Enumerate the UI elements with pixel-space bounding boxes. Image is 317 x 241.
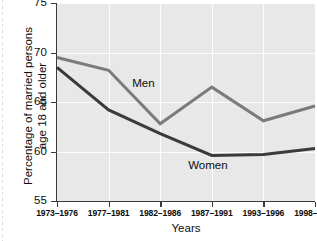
- x-tick-mark: [263, 202, 264, 207]
- x-tick-label: 1987–1991: [191, 208, 233, 218]
- series-label-men: Men: [132, 77, 154, 89]
- chart-figure: Percentage of married persons age 18 and…: [0, 0, 317, 241]
- x-axis-title: Years: [57, 222, 315, 234]
- y-tick-label: 55: [34, 194, 47, 206]
- series-line-men: [57, 57, 315, 123]
- series-lines-layer: [57, 3, 315, 201]
- y-tick-label: 70: [34, 46, 47, 58]
- series-line-women: [57, 67, 315, 155]
- x-tick-mark: [57, 202, 58, 207]
- x-tick-label: 1977–1981: [88, 208, 130, 218]
- y-tick-label: 65: [34, 95, 47, 107]
- x-tick-mark: [212, 202, 213, 207]
- page-edge-dashed-rule: [2, 0, 3, 241]
- series-label-women: Women: [188, 159, 227, 171]
- x-tick-label: 1998–2002: [294, 208, 317, 218]
- gridline-vertical: [315, 3, 316, 201]
- x-tick-mark: [315, 202, 316, 207]
- x-tick-label: 1982–1986: [139, 208, 181, 218]
- y-tick-label: 75: [34, 0, 47, 8]
- x-tick-label: 1993–1996: [243, 208, 285, 218]
- y-tick-label: 60: [34, 145, 47, 157]
- x-tick-label: 1973–1976: [36, 208, 78, 218]
- x-tick-mark: [160, 202, 161, 207]
- x-tick-mark: [109, 202, 110, 207]
- plot-area: MenWomen: [57, 3, 315, 201]
- x-axis-spine: [56, 201, 315, 202]
